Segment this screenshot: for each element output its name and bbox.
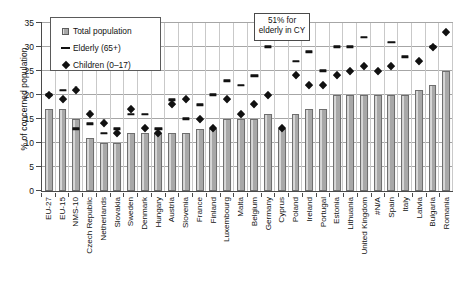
legend: Total population Elderly (65+) Children … (50, 17, 161, 71)
y-tick-label: 25 (25, 66, 34, 76)
x-tick (233, 193, 234, 197)
x-axis-label: France (194, 197, 203, 222)
data-column (165, 23, 179, 191)
x-tick (357, 193, 358, 197)
x-tick (412, 193, 413, 197)
x-axis-label-cell: Germany (261, 193, 275, 301)
x-tick (398, 193, 399, 197)
total-population-bar (387, 95, 395, 191)
total-population-bar (45, 109, 53, 191)
x-tick (247, 193, 248, 197)
elderly-marker (237, 84, 244, 87)
elderly-marker (333, 46, 340, 49)
elderly-marker (251, 75, 258, 78)
elderly-marker (360, 36, 367, 39)
total-population-bar (401, 95, 409, 191)
x-axis-label-cell: Lithuania (343, 193, 357, 301)
x-tick (384, 193, 385, 197)
diamond-swatch-icon (58, 62, 73, 68)
x-axis-label-cell: Sweden (123, 193, 137, 301)
children-marker (236, 110, 245, 119)
x-axis-label: Hungary (153, 197, 162, 228)
x-tick (68, 193, 69, 197)
x-axis-label-cell: Austria (165, 193, 179, 301)
total-population-bar (360, 95, 368, 191)
total-population-bar (86, 138, 94, 191)
x-tick (41, 193, 42, 197)
x-axis-label: Denmark (140, 197, 149, 230)
elderly-marker (100, 132, 107, 135)
data-column (302, 23, 316, 191)
x-axis-label: Luxembourg (222, 197, 231, 242)
children-marker (442, 28, 451, 37)
legend-item-total-population: Total population (58, 23, 160, 39)
x-tick (274, 193, 275, 197)
legend-label: Total population (73, 26, 132, 36)
x-axis-label-cell: Slovakia (110, 193, 124, 301)
x-axis-labels: EU-27EU-15NMS-10Czech RepublicNetherland… (41, 193, 453, 301)
total-population-bar (278, 129, 286, 191)
x-tick (439, 193, 440, 197)
x-tick (261, 193, 262, 197)
x-axis-label-cell: Finland (206, 193, 220, 301)
x-axis-label: Poland (291, 197, 300, 222)
x-axis-label-cell: Spain (384, 193, 398, 301)
children-marker (346, 66, 355, 75)
x-axis-label: #N/A (373, 197, 382, 215)
x-axis-label: Slovakia (112, 197, 121, 228)
x-axis-label: Portugal (318, 197, 327, 227)
legend-label: Children (0–17) (73, 60, 131, 70)
x-axis-label: NMS-10 (71, 197, 80, 227)
elderly-marker (402, 55, 409, 58)
x-axis-label-cell: France (192, 193, 206, 301)
data-column (330, 23, 344, 191)
x-axis-label-cell: Romania (439, 193, 453, 301)
x-tick (137, 193, 138, 197)
total-population-bar (429, 85, 437, 191)
data-column (179, 23, 193, 191)
total-population-bar (100, 143, 108, 191)
elderly-marker (86, 123, 93, 126)
column-separator (452, 23, 453, 191)
children-marker (85, 110, 94, 119)
data-column (316, 23, 330, 191)
x-axis-label: Malta (236, 197, 245, 217)
x-tick (288, 193, 289, 197)
y-tick-label: 0 (29, 186, 34, 196)
total-population-bar (59, 109, 67, 191)
x-axis-label-cell: Bulgaria (426, 193, 440, 301)
x-axis-label: Italy (400, 197, 409, 212)
total-population-bar (209, 129, 217, 191)
x-axis-label: Netherlands (98, 197, 107, 241)
x-tick (371, 193, 372, 197)
x-tick (82, 193, 83, 197)
total-population-bar (155, 133, 163, 191)
children-marker (250, 100, 259, 109)
total-population-bar (292, 114, 300, 191)
x-axis-label: Spain (387, 197, 396, 218)
legend-item-elderly: Elderly (65+) (58, 40, 160, 56)
x-tick (110, 193, 111, 197)
x-tick (55, 193, 56, 197)
children-marker (181, 95, 190, 104)
data-column (206, 23, 220, 191)
data-column (439, 23, 453, 191)
x-axis-label: Lithuania (346, 197, 355, 230)
x-axis-label-cell: Cyprus (274, 193, 288, 301)
legend-label: Elderly (65+) (73, 43, 121, 53)
population-chart: % of concerned population 05101520253035… (0, 0, 460, 301)
data-column (248, 23, 262, 191)
total-population-bar (442, 71, 450, 191)
x-axis-label-cell: Poland (288, 193, 302, 301)
x-axis-label: United Kingdom (359, 197, 368, 255)
data-column (220, 23, 234, 191)
total-population-bar (319, 109, 327, 191)
y-tick-label: 30 (25, 42, 34, 52)
children-marker (99, 119, 108, 128)
children-marker (264, 90, 273, 99)
total-population-bar (168, 133, 176, 191)
x-axis-label: Sweden (126, 197, 135, 226)
x-tick (302, 193, 303, 197)
x-axis-label-cell: Portugal (316, 193, 330, 301)
x-axis-label-cell: Ireland (302, 193, 316, 301)
